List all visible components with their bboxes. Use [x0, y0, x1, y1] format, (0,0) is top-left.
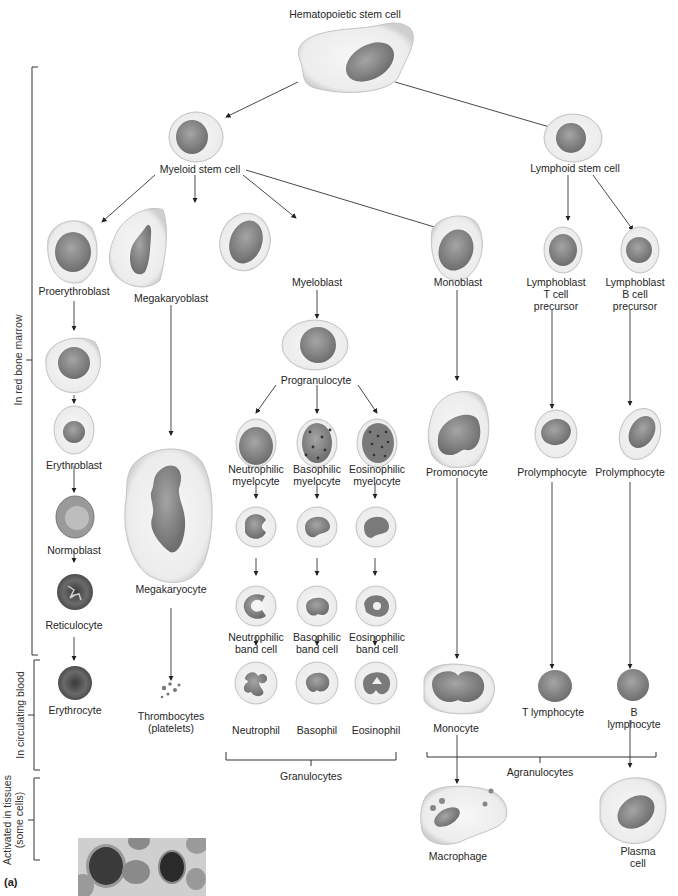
label-lymphoblast-b: Lymphoblast B cell precursor	[605, 276, 664, 312]
label-b-lymphocyte: B lymphocyte	[607, 706, 660, 730]
label-thrombocytes: Thrombocytes (platelets)	[138, 710, 205, 734]
bracket-red-bone-marrow	[26, 67, 38, 655]
panel-label: (a)	[4, 876, 17, 888]
label-neutrophil: Neutrophil	[232, 724, 280, 736]
cell-prolymphocyte-t	[535, 410, 577, 458]
label-neutrophilic-myelocyte: Neutrophilic myelocyte	[228, 463, 283, 487]
label-granulocytes: Granulocytes	[280, 770, 342, 782]
cell-b-lymphocyte	[617, 669, 649, 701]
label-basophilic-myelocyte: Basophilic myelocyte	[293, 463, 341, 487]
label-proerythroblast: Proerythroblast	[38, 285, 109, 297]
cell-megakaryoblast	[109, 208, 166, 287]
label-prolymphocyte-b: Prolymphocyte	[595, 466, 664, 478]
cell-monoblast	[431, 216, 482, 281]
cell-rbc-stage-1	[46, 338, 101, 393]
cell-neutrophil-metamyelocyte	[236, 507, 276, 547]
cell-eosinophil	[355, 662, 397, 704]
cell-prolymphocyte-b	[612, 403, 667, 466]
label-hsc: Hematopoietic stem cell	[289, 8, 400, 20]
label-myeloid-stem: Myeloid stem cell	[160, 163, 241, 175]
hematopoiesis-diagram: In red bone marrow In circulating blood …	[0, 0, 678, 896]
label-eosinophilic-myelocyte: Eosinophilic myelocyte	[349, 463, 405, 487]
label-lymphoid-stem: Lymphoid stem cell	[530, 162, 619, 174]
cell-megakaryocyte	[125, 449, 212, 583]
cell-basophil-metamyelocyte	[297, 507, 337, 547]
label-neutrophilic-band: Neutrophilic band cell	[228, 631, 283, 655]
cell-lymphoblast-t	[544, 227, 582, 273]
label-basophil: Basophil	[297, 724, 337, 736]
cell-basophilic-myelocyte	[297, 419, 337, 467]
cell-eosinophilic-band	[356, 586, 396, 626]
cell-promonocyte	[428, 392, 489, 468]
label-eosinophil: Eosinophil	[352, 724, 400, 736]
cell-thrombocytes	[161, 682, 181, 698]
label-reticulocyte: Reticulocyte	[45, 619, 102, 631]
bracket-tissues	[28, 778, 40, 860]
label-megakaryocyte: Megakaryocyte	[135, 583, 206, 595]
bracket-circulating-blood	[28, 660, 40, 770]
label-plasma-cell: Plasma cell	[618, 845, 658, 869]
label-normoblast: Normoblast	[47, 544, 101, 556]
cell-macrophage	[421, 786, 507, 844]
micrograph-thumbnail	[78, 838, 206, 896]
cell-reticulocyte	[57, 574, 93, 610]
cell-myeloblast	[213, 208, 276, 277]
cell-lymphoblast-b	[621, 227, 659, 273]
label-erythrocyte: Erythrocyte	[48, 704, 101, 716]
label-t-lymphocyte: T lymphocyte	[522, 706, 584, 718]
cell-lymphoid-stem	[544, 114, 602, 162]
cell-eosinophil-metamyelocyte	[356, 507, 396, 547]
cell-proerythroblast	[48, 221, 97, 283]
label-lymphoblast-t: Lymphoblast T cell precursor	[526, 276, 585, 312]
label-eosinophilic-band: Eosinophilic band cell	[349, 631, 405, 655]
label-agranulocytes: Agranulocytes	[507, 766, 574, 778]
label-activated-tissues: Activated in tissues (some cells)	[1, 775, 25, 865]
label-megakaryoblast: Megakaryoblast	[134, 292, 208, 304]
label-prolymphocyte-t: Prolymphocyte	[517, 466, 586, 478]
cell-basophil	[296, 662, 338, 704]
cell-neutrophil	[235, 662, 277, 704]
cell-basophilic-band	[297, 586, 337, 626]
bracket-agranulocytes	[427, 752, 656, 763]
label-erythroblast: Erythroblast	[46, 459, 102, 471]
label-macrophage: Macrophage	[429, 850, 487, 862]
cell-progranulocyte	[282, 320, 348, 370]
cell-erythrocyte	[58, 666, 92, 700]
label-basophilic-band: Basophilic band cell	[293, 631, 341, 655]
cell-myeloid-stem	[169, 112, 223, 162]
label-red-bone-marrow: In red bone marrow	[12, 314, 24, 405]
label-monoblast: Monoblast	[434, 276, 482, 288]
cell-neutrophilic-myelocyte	[236, 419, 276, 467]
cell-neutrophilic-band	[236, 586, 276, 626]
label-monocyte: Monocyte	[433, 722, 479, 734]
label-progranulocyte: Progranulocyte	[281, 374, 352, 386]
cell-plasma-cell	[600, 778, 666, 844]
label-promonocyte: Promonocyte	[426, 466, 488, 478]
cell-normoblast	[56, 496, 94, 538]
label-myeloblast: Myeloblast	[292, 276, 342, 288]
cell-t-lymphocyte	[538, 670, 572, 702]
label-circulating-blood: In circulating blood	[14, 671, 26, 759]
cell-eosinophilic-myelocyte	[357, 419, 397, 467]
cell-erythroblast	[54, 406, 94, 454]
bracket-granulocytes	[226, 752, 396, 766]
cell-monocyte	[424, 664, 495, 714]
